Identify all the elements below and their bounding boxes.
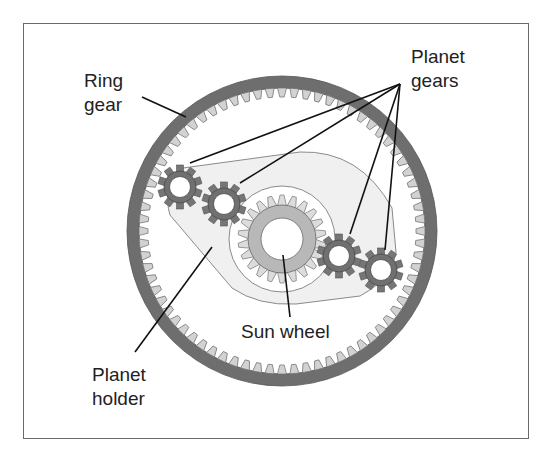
planet-gear-1: [158, 165, 202, 209]
planet-gear-4: [359, 248, 403, 292]
label-ring-gear: Ring gear: [84, 69, 123, 117]
label-sun-wheel: Sun wheel: [241, 320, 330, 344]
label-ring-gear-line1: Ring: [84, 69, 123, 93]
label-ring-gear-line2: gear: [84, 93, 123, 117]
planet-gear-3: [317, 234, 361, 278]
label-planet-holder-line2: holder: [92, 387, 146, 411]
label-planet-holder-line1: Planet: [92, 363, 146, 387]
label-sun-wheel-line1: Sun wheel: [241, 320, 330, 344]
label-planet-gears: Planet gears: [411, 45, 465, 93]
planet-gear-2: [202, 182, 246, 226]
sun-wheel: [229, 186, 335, 292]
ring-gear-leader: [142, 97, 186, 117]
label-planet-holder: Planet holder: [92, 363, 146, 411]
label-planet-gears-line2: gears: [411, 69, 465, 93]
label-planet-gears-line1: Planet: [411, 45, 465, 69]
